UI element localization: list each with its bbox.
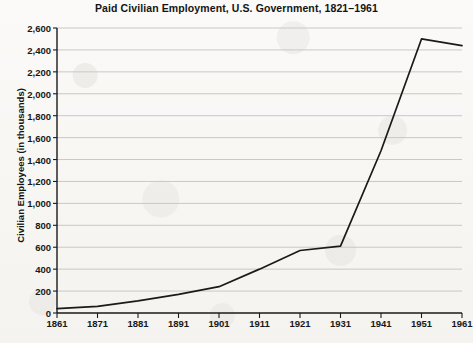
data-series-line <box>57 39 462 309</box>
axis-lines <box>57 28 462 313</box>
gridlines <box>57 28 462 291</box>
line-chart: Paid Civilian Employment, U.S. Governmen… <box>0 0 473 343</box>
plot-area <box>0 0 473 343</box>
series-line-paid-civilian-employees <box>57 39 462 309</box>
